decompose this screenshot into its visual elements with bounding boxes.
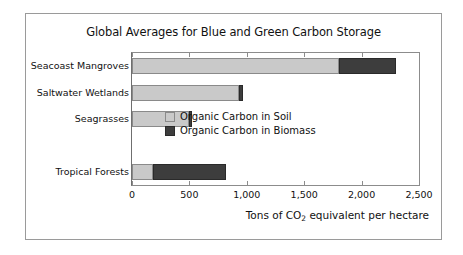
legend-item-soil: Organic Carbon in Soil — [165, 110, 316, 123]
legend-label-biomass: Organic Carbon in Biomass — [180, 125, 316, 136]
chart-legend: Organic Carbon in Soil Organic Carbon in… — [165, 110, 316, 138]
bar-segment-soil — [132, 85, 239, 101]
x-tick-mark-top — [189, 53, 190, 57]
x-tick-mark-bottom — [189, 181, 190, 185]
bar-row: Tropical Forests — [132, 164, 419, 180]
x-axis-title-post: equivalent per hectare — [306, 209, 429, 221]
x-tick-mark-top — [419, 53, 420, 57]
bar-segment-soil — [132, 164, 153, 180]
legend-label-soil: Organic Carbon in Soil — [180, 111, 292, 122]
x-tick-mark-bottom — [247, 181, 248, 185]
bar-row: Seacoast Mangroves — [132, 58, 419, 74]
x-tick-mark-top — [362, 53, 363, 57]
x-axis-title-pre: Tons of CO — [246, 209, 302, 221]
bar-segment-soil — [132, 58, 339, 74]
chart-figure-frame: Global Averages for Blue and Green Carbo… — [25, 13, 442, 240]
x-tick-label: 2,500 — [405, 189, 432, 200]
legend-swatch-biomass-icon — [165, 126, 175, 136]
x-axis-title-subscript: 2 — [301, 214, 306, 223]
x-tick-mark-top — [304, 53, 305, 57]
x-tick-mark-bottom — [362, 181, 363, 185]
x-axis-title: Tons of CO2 equivalent per hectare — [246, 209, 429, 221]
bar-segment-biomass — [339, 58, 396, 74]
legend-item-biomass: Organic Carbon in Biomass — [165, 124, 316, 137]
bar-segment-biomass — [153, 164, 226, 180]
x-tick-label: 2,000 — [348, 189, 375, 200]
x-tick-label: 500 — [180, 189, 198, 200]
x-tick-mark-bottom — [132, 181, 133, 185]
x-tick-mark-top — [247, 53, 248, 57]
x-tick-mark-bottom — [304, 181, 305, 185]
bar-row: Saltwater Wetlands — [132, 85, 419, 101]
x-tick-mark-bottom — [419, 181, 420, 185]
category-label: Tropical Forests — [56, 164, 129, 180]
x-tick-label: 0 — [129, 189, 135, 200]
x-tick-mark-top — [132, 53, 133, 57]
x-tick-label: 1,500 — [291, 189, 318, 200]
x-tick-label: 1,000 — [233, 189, 260, 200]
chart-title: Global Averages for Blue and Green Carbo… — [26, 25, 441, 39]
category-label: Saltwater Wetlands — [37, 85, 129, 101]
legend-swatch-soil-icon — [165, 112, 175, 122]
bar-segment-biomass — [239, 85, 243, 101]
category-label: Seacoast Mangroves — [31, 58, 129, 74]
category-label: Seagrasses — [75, 111, 129, 127]
